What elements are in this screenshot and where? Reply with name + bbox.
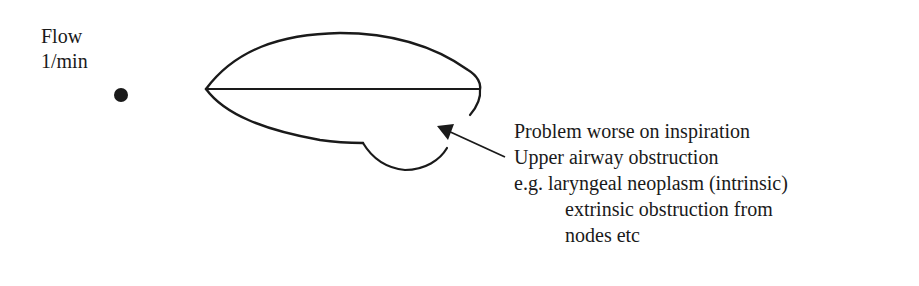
inspiratory-curve-right — [470, 89, 480, 115]
annotation-text: Problem worse on inspiration Upper airwa… — [514, 118, 788, 248]
flow-axis-label: Flow — [41, 24, 82, 48]
annotation-line-1: Problem worse on inspiration — [514, 118, 788, 144]
annotation-line-2: Upper airway obstruction — [514, 144, 788, 170]
annotation-line-4: extrinsic obstruction from — [514, 196, 788, 222]
flow-unit: 1/min — [41, 50, 88, 72]
annotation-line-3: e.g. laryngeal neoplasm (intrinsic) — [514, 170, 788, 196]
annotation-line-5: nodes etc — [514, 222, 788, 248]
inspiratory-notch — [363, 143, 447, 170]
expiratory-curve — [206, 33, 480, 89]
inspiratory-curve — [206, 89, 363, 143]
origin-dot — [114, 88, 128, 102]
flow-unit-label: 1/min — [41, 49, 88, 73]
pointer-arrow-shaft — [446, 130, 505, 157]
flow-label: Flow — [41, 25, 82, 47]
